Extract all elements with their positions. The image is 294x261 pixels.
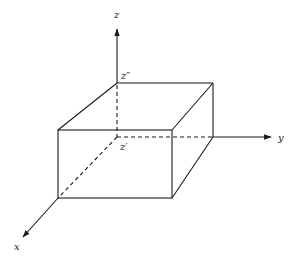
z-double-prime-label: z″ bbox=[120, 70, 130, 81]
box-front-face bbox=[58, 130, 172, 198]
z-prime-label: z′ bbox=[119, 141, 128, 152]
z-axis-label: z bbox=[113, 9, 120, 20]
x-axis bbox=[23, 198, 58, 237]
y-axis-label: y bbox=[277, 132, 284, 143]
box-diagram: z y x z″ z′ bbox=[0, 0, 294, 261]
box bbox=[58, 83, 213, 198]
x-axis-label: x bbox=[14, 241, 20, 252]
box-hidden-edges bbox=[58, 85, 213, 198]
